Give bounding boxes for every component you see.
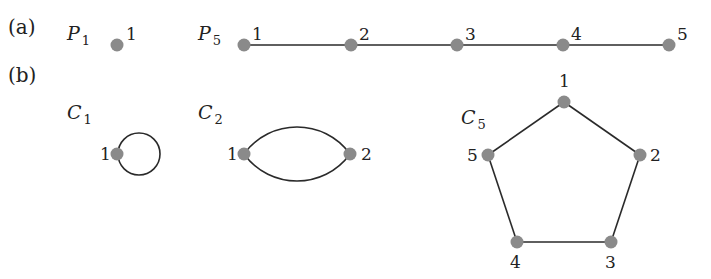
self-loop-edge [118, 133, 160, 175]
node-1 [238, 39, 251, 52]
panel-label-b: (b) [8, 63, 36, 87]
node-label-1: 1 [100, 144, 111, 164]
node-2 [634, 149, 647, 162]
node-1 [238, 148, 251, 161]
node-2 [344, 148, 357, 161]
graph-name-subscript: 5 [478, 117, 486, 132]
graph-p5: P512345 [197, 22, 688, 52]
node-label-5: 5 [467, 145, 478, 165]
node-1 [111, 148, 124, 161]
graph-name-subscript: 2 [215, 112, 223, 127]
edge-2-3 [611, 155, 640, 242]
graphs-layer: P11P512345C11C212C512345 [66, 22, 688, 272]
node-2 [345, 39, 358, 52]
edge-5-1 [488, 102, 564, 155]
node-4 [557, 39, 570, 52]
panel-label-a: (a) [8, 15, 36, 39]
graph-name-subscript: 5 [213, 33, 221, 48]
node-5 [663, 39, 676, 52]
node-label-2: 2 [650, 145, 661, 165]
node-label-3: 3 [605, 252, 616, 272]
node-label-3: 3 [465, 24, 476, 44]
node-label-1: 1 [227, 144, 238, 164]
node-3 [451, 39, 464, 52]
node-4 [511, 236, 524, 249]
edge-4-5 [488, 155, 517, 242]
node-label-2: 2 [359, 24, 370, 44]
multi-edge-1 [244, 127, 350, 154]
edge-1-2 [564, 102, 640, 155]
graph-name-c2: C2 [198, 101, 223, 127]
node-1 [111, 39, 124, 52]
graph-c5: C512345 [461, 71, 661, 272]
multi-edge-2 [244, 154, 350, 181]
graph-name-subscript: 1 [84, 112, 92, 127]
node-3 [605, 236, 618, 249]
node-label-4: 4 [571, 24, 582, 44]
node-label-5: 5 [677, 24, 688, 44]
graph-name-subscript: 1 [82, 33, 90, 48]
graph-p1: P11 [66, 22, 137, 52]
graph-c1: C11 [67, 101, 160, 175]
graph-figure: (a) (b) P11P512345C11C212C512345 [0, 0, 711, 279]
graph-name-p1: P1 [66, 22, 90, 48]
graph-name-c5: C5 [461, 106, 486, 132]
node-label-2: 2 [361, 144, 372, 164]
graph-c2: C212 [198, 101, 372, 181]
node-5 [482, 149, 495, 162]
diagram-canvas: (a) (b) P11P512345C11C212C512345 [0, 0, 711, 279]
node-label-1: 1 [126, 24, 137, 44]
node-label-4: 4 [510, 252, 521, 272]
graph-name-p5: P5 [197, 22, 221, 48]
node-label-1: 1 [559, 71, 570, 91]
graph-name-c1: C1 [67, 101, 92, 127]
node-label-1: 1 [252, 24, 263, 44]
node-1 [558, 96, 571, 109]
